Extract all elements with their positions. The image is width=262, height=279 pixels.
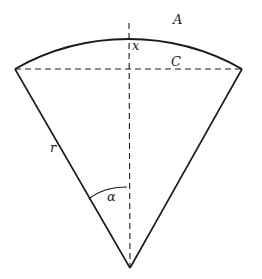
label-radius-r: r xyxy=(50,140,57,155)
sector-diagram: A x C r α xyxy=(0,0,262,279)
label-chord-C: C xyxy=(171,54,181,69)
arc-A xyxy=(15,39,242,69)
radius-left xyxy=(15,69,130,268)
label-sagitta-x: x xyxy=(132,38,140,53)
label-arc-A: A xyxy=(172,12,182,27)
bisector xyxy=(129,23,130,268)
radius-right xyxy=(130,69,242,268)
label-angle-alpha: α xyxy=(107,189,116,204)
